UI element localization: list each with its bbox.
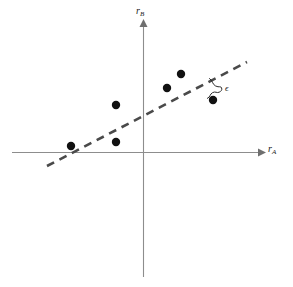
- y-axis-label-subscript: B: [140, 10, 144, 18]
- x-axis-label: rA: [268, 144, 276, 154]
- scatter-plot-figure: rB rA ϵ: [0, 0, 293, 287]
- x-axis-label-subscript: A: [272, 148, 276, 156]
- y-axis-label: rB: [136, 6, 144, 16]
- regression-line: [47, 62, 247, 166]
- y-axis: [140, 19, 148, 277]
- x-axis: [12, 149, 266, 157]
- data-point: [67, 142, 75, 150]
- data-point: [209, 96, 217, 104]
- data-point: [112, 101, 120, 109]
- data-point: [112, 138, 120, 146]
- x-axis-arrow-icon: [258, 149, 266, 157]
- residual-epsilon-label: ϵ: [225, 84, 229, 93]
- y-axis-arrow-icon: [140, 19, 148, 27]
- data-point: [163, 84, 171, 92]
- data-point: [177, 70, 185, 78]
- data-point-group: [67, 70, 217, 150]
- plot-canvas: [0, 0, 293, 287]
